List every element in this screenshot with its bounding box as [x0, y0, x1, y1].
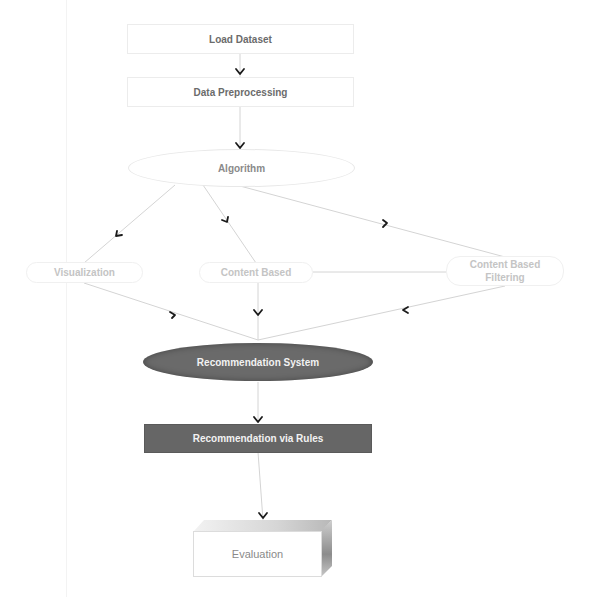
node-content-based-filtering: Content Based Filtering [446, 256, 564, 286]
node-load-dataset: Load Dataset [127, 24, 354, 54]
node-recommendation-via-rules: Recommendation via Rules [144, 424, 372, 453]
node-label: Visualization [54, 266, 115, 279]
node-label: Load Dataset [209, 33, 272, 46]
node-label: Recommendation System [197, 356, 319, 369]
edge-rules-eval [258, 452, 263, 520]
node-visualization: Visualization [26, 262, 143, 283]
edge-cbf-recsys [258, 286, 505, 340]
node-data-preprocessing: Data Preprocessing [127, 77, 354, 107]
edge-viz-recsys [84, 283, 258, 340]
edge-algo-viz [84, 185, 175, 263]
node-label: Evaluation [232, 548, 283, 561]
arrowhead-icon [383, 220, 387, 227]
node-label: Content Based [221, 266, 292, 279]
node-algorithm: Algorithm [128, 149, 355, 187]
node-recommendation-system: Recommendation System [143, 343, 373, 381]
node-label: Algorithm [218, 162, 265, 175]
edge-algo-cbf [240, 186, 505, 257]
node-label: Recommendation via Rules [193, 432, 324, 445]
node-label-line2: Filtering [485, 271, 524, 284]
node-content-based: Content Based [199, 262, 313, 283]
flowchart-canvas: Load Dataset Data Preprocessing Algorith… [0, 0, 591, 597]
edge-algo-cb [203, 185, 256, 263]
box3d-top-face [194, 520, 332, 531]
node-label: Data Preprocessing [194, 86, 288, 99]
node-label-line1: Content Based [470, 258, 541, 271]
node-evaluation: Evaluation [193, 531, 322, 577]
